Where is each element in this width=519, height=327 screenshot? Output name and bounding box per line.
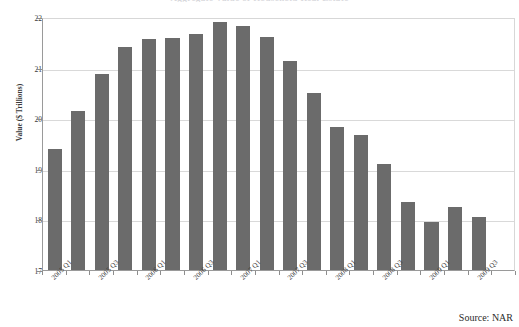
- bar: [307, 93, 321, 270]
- bar-slot: [114, 19, 138, 270]
- bar-slot: [137, 19, 161, 270]
- bar: [377, 164, 391, 270]
- bar-slot: [443, 19, 467, 270]
- bar: [401, 202, 415, 270]
- bar: [472, 217, 486, 270]
- bar-slot: [420, 19, 444, 270]
- bar: [283, 61, 297, 270]
- bar-slot: [467, 19, 491, 270]
- x-axis-labels: 2005 Q12005 Q32006 Q12006 Q32007 Q12007 …: [42, 274, 515, 318]
- bar-slot: [231, 19, 255, 270]
- bar-slot: [43, 19, 67, 270]
- y-axis-ticks: 171819202122: [0, 18, 42, 271]
- bar-slot: [349, 19, 373, 270]
- bar-slot: [326, 19, 350, 270]
- bar-slot: [161, 19, 185, 270]
- bar-slot: [208, 19, 232, 270]
- bar: [354, 135, 368, 270]
- bar-slot: [67, 19, 91, 270]
- bar-slot: [278, 19, 302, 270]
- bar: [95, 74, 109, 270]
- bar: [330, 127, 344, 270]
- bar-slot: [90, 19, 114, 270]
- bar: [71, 111, 85, 270]
- plot-area: [42, 18, 515, 271]
- bar: [260, 37, 274, 270]
- bar: [165, 38, 179, 270]
- x-tick-mark: [515, 271, 516, 275]
- bar-slot: [302, 19, 326, 270]
- bar: [448, 207, 462, 270]
- chart-title: Aggregate Value of Household Real Estate: [0, 0, 519, 2]
- bar: [189, 34, 203, 270]
- bar-slot: [184, 19, 208, 270]
- bar: [118, 47, 132, 270]
- bar-series: [43, 19, 514, 270]
- bar: [236, 26, 250, 270]
- bar: [424, 222, 438, 270]
- bar-slot: [396, 19, 420, 270]
- bar-slot: [373, 19, 397, 270]
- bar-slot: [255, 19, 279, 270]
- source-note: Source: NAR: [459, 312, 513, 323]
- bar: [142, 39, 156, 270]
- bar-slot: [490, 19, 514, 270]
- bar: [213, 22, 227, 270]
- chart-root: Aggregate Value of Household Real Estate…: [0, 0, 519, 327]
- bar: [48, 149, 62, 270]
